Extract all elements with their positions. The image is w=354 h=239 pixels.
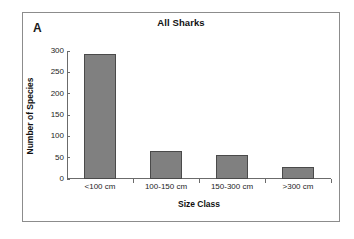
bar-slot [199, 51, 265, 179]
x-axis-title: Size Class [67, 199, 331, 209]
y-axis-tick-label: 100 [51, 132, 67, 140]
bar-slot [133, 51, 199, 179]
bar[interactable] [282, 167, 314, 179]
plot-area: 050100150200250300 [67, 51, 331, 179]
y-axis-tick-label: 200 [51, 90, 67, 98]
x-axis-tick-label: <100 cm [67, 183, 133, 192]
bar[interactable] [216, 155, 248, 179]
x-axis-tick-label: 100-150 cm [133, 183, 199, 192]
bar-slot [265, 51, 331, 179]
y-axis-tick-label: 150 [51, 111, 67, 119]
x-axis-tick-label: 150-300 cm [199, 183, 265, 192]
figure-panel: A All Sharks Number of Species 050100150… [22, 12, 340, 222]
x-axis-tick-label: >300 cm [265, 183, 331, 192]
x-axis-tick-labels: <100 cm100-150 cm150-300 cm>300 cm [67, 183, 331, 192]
y-axis-title: Number of Species [22, 51, 36, 181]
y-axis-tick-label: 0 [60, 175, 67, 183]
y-axis-title-text: Number of Species [24, 78, 34, 155]
chart-title: All Sharks [23, 17, 339, 28]
bar[interactable] [150, 151, 182, 179]
x-axis-tick-mark [331, 179, 332, 183]
bar-slot [67, 51, 133, 179]
bar[interactable] [84, 54, 116, 179]
y-axis-tick-label: 50 [55, 154, 67, 162]
bar-series [67, 51, 331, 179]
y-axis-tick-label: 250 [51, 68, 67, 76]
y-axis-tick-label: 300 [51, 47, 67, 55]
